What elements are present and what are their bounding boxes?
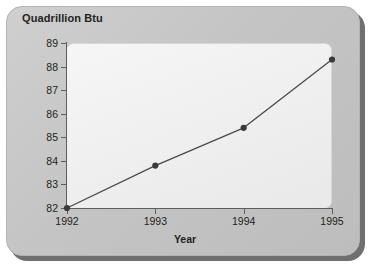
- data-series-layer: [0, 0, 370, 269]
- series-line: [67, 60, 332, 209]
- series-markers: [64, 56, 335, 211]
- data-point-1995: [329, 56, 335, 62]
- data-point-1993: [152, 162, 158, 168]
- x-axis-title: Year: [0, 233, 370, 245]
- data-point-1992: [64, 205, 70, 211]
- chart-figure: Quadrillion Btu 8988878685848382 1992199…: [0, 0, 370, 269]
- data-point-1994: [241, 125, 247, 131]
